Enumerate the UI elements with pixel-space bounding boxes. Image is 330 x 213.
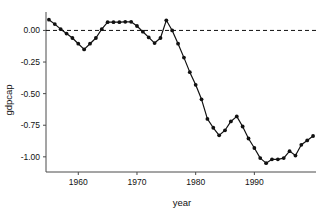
- data-point: [294, 154, 298, 158]
- data-point: [164, 18, 168, 22]
- data-point: [82, 47, 86, 51]
- y-axis-title: gdpcap: [3, 84, 14, 115]
- data-point: [288, 149, 292, 153]
- data-point: [252, 146, 256, 150]
- data-point: [153, 41, 157, 45]
- y-tick-label: -1.00: [21, 152, 41, 162]
- data-point: [159, 36, 163, 40]
- data-point: [211, 126, 215, 130]
- data-point: [235, 114, 239, 118]
- x-axis-title: year: [173, 197, 191, 208]
- data-point: [88, 42, 92, 46]
- gdpcap-line-chart: 0.00-0.25-0.50-0.75-1.00 196019701980199…: [0, 0, 330, 213]
- data-point: [76, 42, 80, 46]
- data-point: [270, 157, 274, 161]
- data-point: [53, 22, 57, 26]
- data-point: [106, 20, 110, 24]
- x-axis: 1960197019801990: [46, 172, 316, 187]
- data-point: [311, 134, 315, 138]
- chart-container: 0.00-0.25-0.50-0.75-1.00 196019701980199…: [0, 0, 330, 213]
- data-point: [188, 70, 192, 74]
- data-point: [117, 20, 121, 24]
- data-point: [71, 36, 75, 40]
- y-tick-label: 0.00: [23, 25, 40, 35]
- x-tick-label: 1990: [245, 177, 264, 187]
- data-point: [170, 29, 174, 33]
- data-point: [206, 117, 210, 121]
- data-point: [141, 30, 145, 34]
- y-tick-label: -0.75: [21, 120, 41, 130]
- data-point: [258, 156, 262, 160]
- x-tick-label: 1960: [69, 177, 88, 187]
- data-point: [305, 139, 309, 143]
- data-point: [247, 137, 251, 141]
- data-point: [299, 143, 303, 147]
- y-tick-label: -0.25: [21, 57, 41, 67]
- gdpcap-series-line: [49, 20, 313, 163]
- data-point: [47, 18, 51, 22]
- data-point: [223, 128, 227, 132]
- data-point: [100, 27, 104, 31]
- data-point: [129, 20, 133, 24]
- y-axis: 0.00-0.25-0.50-0.75-1.00: [21, 12, 46, 172]
- gdpcap-series-points: [47, 18, 315, 165]
- data-point: [94, 36, 98, 40]
- data-point: [65, 32, 69, 36]
- y-tick-group: 0.00-0.25-0.50-0.75-1.00: [21, 25, 46, 161]
- x-tick-group: 1960197019801990: [69, 172, 264, 187]
- data-point: [241, 125, 245, 129]
- data-point: [264, 161, 268, 165]
- data-point: [123, 20, 127, 24]
- data-point: [135, 24, 139, 28]
- y-tick-label: -0.50: [21, 89, 41, 99]
- data-point: [147, 35, 151, 39]
- x-tick-label: 1980: [186, 177, 205, 187]
- data-point: [282, 156, 286, 160]
- data-point: [176, 42, 180, 46]
- data-point: [59, 27, 63, 31]
- data-point: [112, 20, 116, 24]
- x-tick-label: 1970: [128, 177, 147, 187]
- data-point: [276, 157, 280, 161]
- data-point: [217, 133, 221, 137]
- data-point: [200, 97, 204, 101]
- data-point: [182, 56, 186, 60]
- data-point: [194, 83, 198, 87]
- data-point: [229, 120, 233, 124]
